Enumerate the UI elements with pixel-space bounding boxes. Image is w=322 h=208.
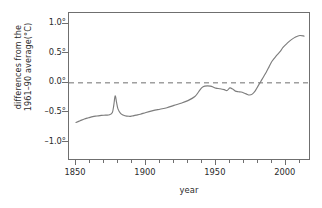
x-tick-mark-minor — [131, 160, 132, 163]
x-tick-mark-major — [145, 160, 146, 165]
y-axis-title: differences from the 1961–90 average(°C) — [6, 0, 40, 142]
x-tick-label: 2000 — [265, 168, 305, 177]
x-tick-mark-minor — [159, 160, 160, 163]
x-tick-mark-minor — [89, 160, 90, 163]
x-tick-mark-minor — [173, 160, 174, 163]
x-tick-mark-minor — [243, 160, 244, 163]
plot-canvas — [69, 13, 311, 161]
x-axis-title: year — [68, 185, 310, 195]
plot-area — [68, 12, 310, 160]
x-tick-label: 1850 — [55, 168, 95, 177]
temperature-anomaly-line — [76, 35, 304, 122]
x-tick-mark-major — [75, 160, 76, 165]
x-tick-mark-major — [285, 160, 286, 165]
y-axis-title-line1: differences from the — [13, 25, 24, 109]
x-tick-mark-minor — [117, 160, 118, 163]
x-tick-mark-minor — [187, 160, 188, 163]
x-tick-mark-minor — [103, 160, 104, 163]
y-axis-title-line2: 1961–90 average(°C) — [23, 23, 34, 112]
chart-figure: differences from the 1961–90 average(°C)… — [0, 0, 322, 208]
x-tick-label: 1900 — [125, 168, 165, 177]
x-tick-mark-minor — [299, 160, 300, 163]
x-tick-mark-minor — [201, 160, 202, 163]
x-tick-mark-minor — [271, 160, 272, 163]
x-tick-label: 1950 — [195, 168, 235, 177]
x-tick-mark-minor — [229, 160, 230, 163]
x-tick-mark-major — [215, 160, 216, 165]
x-tick-mark-minor — [257, 160, 258, 163]
